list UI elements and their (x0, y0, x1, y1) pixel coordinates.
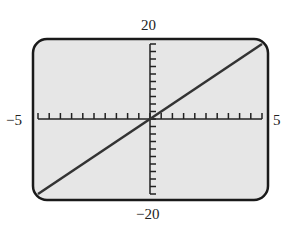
calculator-screen-plot (0, 0, 297, 228)
